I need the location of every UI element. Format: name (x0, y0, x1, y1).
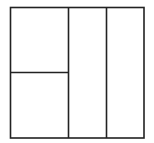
diagram-canvas (0, 0, 154, 143)
region-bottom-left (11, 73, 69, 139)
region-top-left (11, 8, 69, 73)
region-middle-column (69, 8, 107, 139)
partitioned-square-diagram (0, 0, 154, 143)
region-right-column (107, 8, 145, 139)
